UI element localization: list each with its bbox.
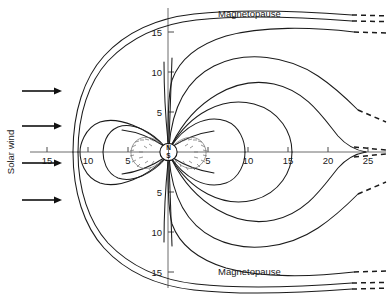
outer-field-line-north-dash	[354, 32, 386, 33]
magnetopause-label-bottom: Magnetopause	[218, 266, 281, 277]
cusp-line-south-1	[164, 162, 168, 242]
outer-field-line-south	[168, 154, 354, 276]
magnetosphere-figure: 15 10 5 5 10 15 20 25 5 10 15 5 10 15	[0, 0, 388, 296]
magnetopause-outer-north-dash	[352, 15, 386, 16]
x-label-left-5: 5	[125, 155, 130, 166]
solar-wind-arrow-2	[22, 123, 62, 130]
solar-wind-label: Solar wind	[5, 130, 16, 174]
cusp-line-north-1	[164, 62, 168, 142]
x-label-left-15: 15	[42, 155, 53, 166]
tail-lobe-field-line-south-dash	[358, 182, 386, 194]
tail-lobe-field-line-north-dash	[358, 110, 386, 122]
axis-group	[30, 8, 386, 288]
solar-wind-arrow-group	[22, 88, 62, 204]
magnetopause-inner-south	[78, 152, 352, 287]
y-label-down-5: 5	[157, 187, 162, 198]
y-label-up-5: 5	[157, 107, 162, 118]
tail-lobe-field-line-south	[169, 157, 358, 247]
north-pole-label: N	[166, 144, 171, 151]
magnetopause-inner-south-dash	[352, 282, 386, 283]
magnetopause-label-top: Magnetopause	[218, 8, 281, 19]
y-label-up-10: 10	[151, 67, 162, 78]
belt-nightside-hatching	[175, 139, 207, 170]
earth-group: N S	[160, 143, 177, 160]
outer-field-line-south-dash	[354, 271, 386, 272]
tail-lobe-field-line-north	[169, 57, 358, 147]
x-label-right-20: 20	[323, 155, 334, 166]
closed-field-line-outer-south	[172, 152, 366, 222]
y-label-down-10: 10	[151, 227, 162, 238]
x-label-left-10: 10	[83, 155, 94, 166]
magnetopause-outer-south-dash	[352, 288, 386, 289]
solar-wind-arrow-1	[22, 88, 62, 95]
closed-field-line-outer-north-dash	[354, 147, 386, 150]
dayside-fan-line-1	[122, 130, 164, 146]
magnetopause-inner-north-dash	[352, 21, 386, 22]
outer-field-line-north	[168, 28, 354, 150]
magnetopause-inner-north	[78, 17, 352, 152]
solar-wind-arrow-4	[22, 197, 62, 204]
x-label-right-5: 5	[205, 155, 210, 166]
south-pole-label: S	[166, 152, 171, 159]
diagram-canvas: 15 10 5 5 10 15 20 25 5 10 15 5 10 15	[0, 0, 388, 296]
